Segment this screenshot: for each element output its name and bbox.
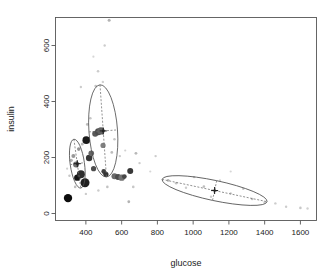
data-point — [81, 143, 84, 146]
data-point — [64, 194, 72, 202]
data-point — [89, 117, 92, 120]
data-point — [74, 186, 77, 189]
data-point — [66, 168, 68, 170]
centroid-dot — [76, 162, 79, 165]
y-tick-label: 600 — [42, 38, 51, 52]
data-point — [230, 170, 232, 172]
x-tick-label: 400 — [79, 228, 93, 237]
data-point — [106, 186, 109, 189]
data-point — [299, 207, 302, 210]
data-point — [82, 136, 90, 144]
data-point — [85, 193, 87, 195]
data-point — [119, 155, 121, 157]
data-point — [113, 138, 116, 141]
data-point — [77, 147, 81, 151]
x-tick-label: 1400 — [256, 228, 274, 237]
data-point — [127, 168, 133, 174]
data-point — [71, 154, 75, 158]
x-tick-label: 800 — [151, 228, 165, 237]
x-tick-label: 1600 — [292, 228, 310, 237]
centroid-dot — [213, 189, 216, 192]
x-tick-label: 1200 — [220, 228, 238, 237]
data-point — [154, 155, 156, 157]
scatter-plot-figure: 40060080010001200140016000200400600 gluc… — [0, 0, 332, 276]
data-point — [149, 170, 151, 172]
data-point — [138, 162, 140, 164]
y-axis-title: insulin — [6, 106, 16, 132]
data-point — [68, 175, 70, 177]
data-point — [102, 81, 104, 83]
data-point — [80, 86, 82, 88]
data-point — [306, 207, 308, 209]
plot-canvas: 40060080010001200140016000200400600 gluc… — [0, 0, 332, 276]
centroid-dot — [102, 130, 105, 133]
data-point — [97, 189, 99, 191]
data-point — [185, 187, 187, 189]
data-point — [274, 202, 276, 204]
x-tick-label: 600 — [115, 228, 129, 237]
data-point — [132, 186, 135, 189]
data-point — [127, 200, 130, 203]
data-point — [203, 185, 206, 188]
data-point — [100, 143, 105, 148]
x-tick-label: 1000 — [184, 228, 202, 237]
y-tick-label: 400 — [42, 94, 51, 108]
data-point — [285, 206, 287, 208]
data-point — [92, 56, 94, 58]
data-point — [122, 174, 127, 179]
data-point — [97, 70, 100, 73]
x-axis-title: glucose — [170, 258, 201, 268]
data-point — [110, 151, 113, 154]
y-tick-label: 200 — [42, 150, 51, 164]
y-tick-label: 0 — [42, 211, 51, 216]
data-point — [210, 196, 212, 198]
data-point — [124, 149, 126, 151]
data-point — [135, 152, 138, 155]
data-point — [91, 166, 96, 171]
data-point — [103, 44, 105, 46]
data-point — [108, 19, 111, 22]
